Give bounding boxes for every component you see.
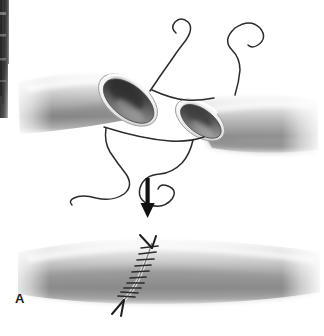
figure-container: A <box>0 0 324 336</box>
panel-label: A <box>15 292 24 306</box>
anastomosis-illustration <box>0 0 324 336</box>
scanned-page-edge <box>0 0 9 118</box>
